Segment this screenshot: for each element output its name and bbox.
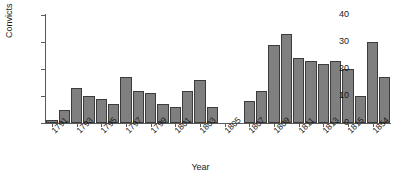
bar xyxy=(268,45,279,123)
y-axis-label: Convicts xyxy=(4,3,14,38)
bar xyxy=(71,88,82,123)
y-axis-tick-label: 20 xyxy=(327,64,349,73)
bar-chart: Convicts Year 01020304017911793179517971… xyxy=(0,0,401,179)
y-axis-tick xyxy=(41,96,46,97)
bar xyxy=(194,80,205,123)
bar xyxy=(145,93,156,123)
bar xyxy=(305,61,316,123)
x-axis-label: Year xyxy=(0,162,401,172)
y-axis-tick-label: 40 xyxy=(327,10,349,19)
bar xyxy=(293,58,304,123)
y-axis-tick-label: 10 xyxy=(327,91,349,100)
y-axis-tick-label: 30 xyxy=(327,37,349,46)
y-axis-tick xyxy=(41,42,46,43)
y-axis-tick xyxy=(41,123,46,124)
y-axis-tick xyxy=(41,69,46,70)
y-axis-tick xyxy=(41,15,46,16)
bar xyxy=(367,42,378,123)
bar xyxy=(281,34,292,123)
bar xyxy=(120,77,131,123)
